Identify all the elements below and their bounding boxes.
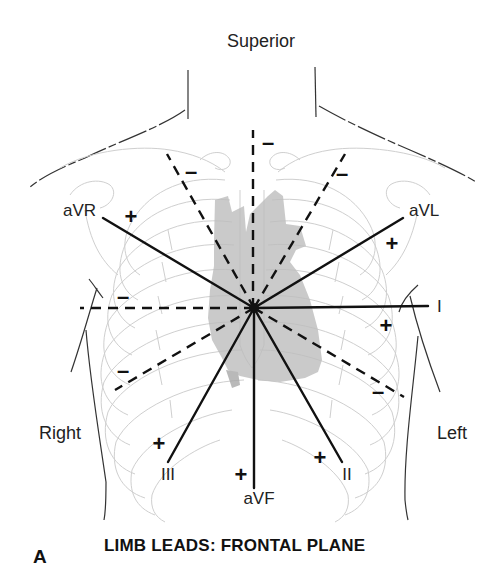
- axis-center-point: [249, 303, 259, 313]
- plus-sign-aVR: +: [125, 206, 138, 228]
- left-label: Left: [437, 424, 467, 442]
- plus-sign-aVF: +: [235, 464, 248, 486]
- lead-label-aVF: aVF: [243, 490, 274, 507]
- lead-label-III: III: [161, 466, 175, 483]
- right-label: Right: [39, 424, 81, 442]
- plus-sign-aVL: +: [386, 233, 399, 255]
- minus-sign-aVR: –: [372, 381, 384, 403]
- superior-label: Superior: [227, 32, 295, 50]
- lead-label-aVR: aVR: [63, 202, 96, 219]
- diagram-canvas: [0, 0, 501, 574]
- lead-label-aVL: aVL: [409, 202, 439, 219]
- plus-sign-III: +: [153, 433, 166, 455]
- plus-sign-I: +: [380, 315, 393, 337]
- figure-title: LIMB LEADS: FRONTAL PLANE: [104, 536, 365, 556]
- limb-leads-diagram: Superior Right Left aVR aVL I III aVF II…: [0, 0, 501, 574]
- lead-label-II: II: [342, 466, 351, 483]
- minus-sign-III: –: [336, 163, 348, 185]
- panel-label: A: [33, 546, 47, 568]
- minus-sign-aVL: –: [117, 360, 129, 382]
- plus-sign-II: +: [314, 447, 327, 469]
- minus-sign-I: –: [117, 286, 129, 308]
- minus-sign-aVF: –: [262, 132, 274, 154]
- lead-label-I: I: [437, 298, 442, 315]
- minus-sign-II: –: [185, 161, 197, 183]
